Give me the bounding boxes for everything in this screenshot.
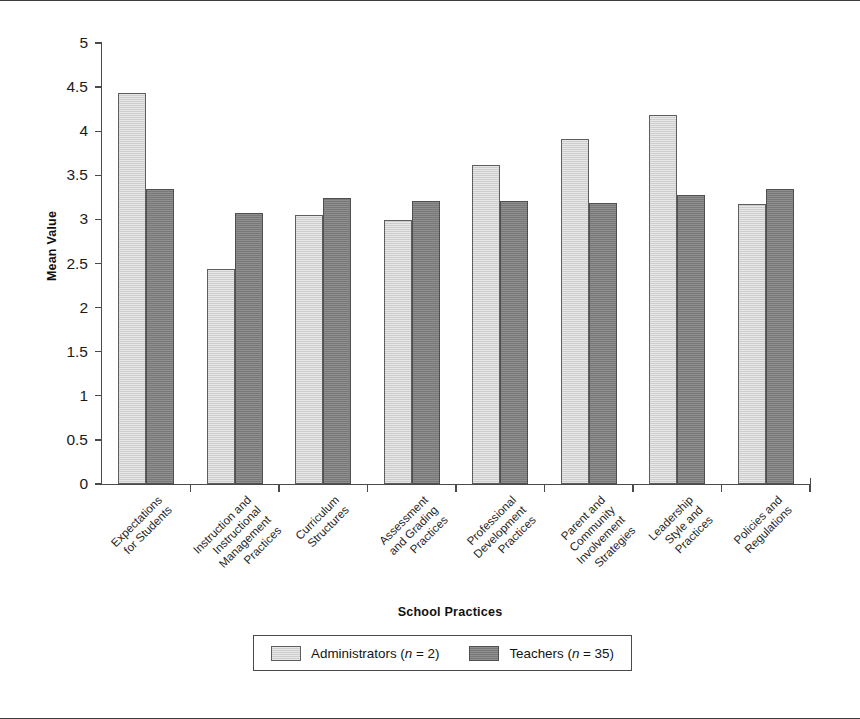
y-axis-tick: [95, 86, 102, 87]
x-axis-tick: [809, 485, 810, 492]
legend: Administrators (n = 2)Teachers (n = 35): [253, 635, 632, 671]
legend-entry: Teachers (n = 35): [469, 646, 614, 661]
legend-label: Administrators (n = 2): [311, 646, 439, 661]
x-axis-tick: [632, 485, 633, 492]
plot-area: [102, 43, 810, 484]
figure-frame: Mean Value 54.543.532.521.510.50 Expecta…: [0, 0, 860, 719]
y-axis-tick: [95, 42, 102, 43]
y-axis-tick-label: 2.5: [40, 256, 88, 272]
y-axis-tick: [95, 175, 102, 176]
y-axis-tick: [95, 439, 102, 440]
x-axis-tick: [455, 485, 456, 492]
bar: [589, 203, 617, 484]
x-axis-title: School Practices: [0, 605, 860, 619]
y-axis-tick-label: 0.5: [40, 432, 88, 448]
y-axis-tick: [95, 219, 102, 220]
bar: [766, 189, 794, 484]
bar: [384, 220, 412, 484]
y-axis-tick-label: 1.5: [40, 344, 88, 360]
y-axis-tick: [95, 263, 102, 264]
y-axis-tick: [95, 483, 102, 484]
legend-swatch: [271, 646, 301, 661]
bar: [677, 195, 705, 484]
y-axis-tick: [95, 351, 102, 352]
bar: [118, 93, 146, 484]
bar: [235, 213, 263, 484]
y-axis-tick-label: 5: [40, 35, 88, 51]
bar: [649, 115, 677, 484]
x-axis-tick: [544, 485, 545, 492]
bar: [472, 165, 500, 484]
bar: [146, 189, 174, 484]
legend-entry: Administrators (n = 2): [271, 646, 439, 661]
y-axis-tick-label: 3.5: [40, 167, 88, 183]
x-axis-tick: [278, 485, 279, 492]
legend-swatch: [469, 646, 499, 661]
bar: [323, 198, 351, 484]
x-axis-tick: [190, 485, 191, 492]
y-axis-title: Mean Value: [45, 186, 59, 306]
y-axis-tick: [95, 131, 102, 132]
y-axis-tick-label: 4.5: [40, 79, 88, 95]
bar: [295, 215, 323, 484]
y-axis-tick-label: 2: [40, 300, 88, 316]
bar: [738, 204, 766, 484]
y-axis-tick: [95, 307, 102, 308]
bar: [561, 139, 589, 484]
x-axis-tick: [721, 485, 722, 492]
legend-label: Teachers (n = 35): [509, 646, 614, 661]
bar: [412, 201, 440, 484]
bar: [500, 201, 528, 484]
bar: [207, 269, 235, 484]
y-axis-tick-label: 3: [40, 211, 88, 227]
y-axis-tick-label: 0: [40, 476, 88, 492]
y-axis-tick-label: 4: [40, 123, 88, 139]
y-axis-tick-label: 1: [40, 388, 88, 404]
x-axis-tick: [367, 485, 368, 492]
y-axis-tick: [95, 395, 102, 396]
